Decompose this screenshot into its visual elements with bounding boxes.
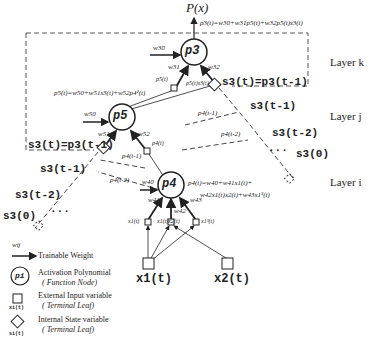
legend-ext-symbol: xi(t) (9, 305, 24, 311)
input-x2-label: x2(t) (214, 272, 250, 286)
state-s3-j-0: s3(0) (3, 210, 36, 222)
layer-j-label: Layer j (330, 110, 361, 122)
legend-int-label: Internal State variable (38, 315, 109, 324)
weight-w32: w32 (208, 63, 220, 71)
output-label: P(x) (186, 0, 208, 16)
edge-label-p4t: p4(t) (152, 140, 164, 146)
legend-poly-sub: ( Function Node) (42, 278, 97, 287)
edge-label-x1cube: x1³(t) (201, 218, 214, 224)
weight-w31: w31 (168, 63, 180, 71)
legend-ext-label: External Input variable (38, 291, 112, 300)
weight-w52: w52 (138, 130, 150, 138)
weight-w50: w50 (84, 110, 96, 118)
edge-label-p4-tm1-i: p4(t-1) (122, 152, 141, 160)
state-s3-j-tm2: s3(t-2) (15, 189, 61, 201)
edge-label-p5s3: p5(t)s3(t) (186, 80, 209, 86)
p4-equation-line1: p4(t)=w40+w41x1(t)+ (188, 179, 252, 187)
terminal-p4t-j (144, 148, 150, 154)
p4-equation-line2: w42x1(t)x2(t)+w43x1³(t) (200, 191, 270, 199)
edge-label-p4-tm1-j: p4(t-1) (198, 109, 217, 117)
legend-poly-symbol: pi (15, 271, 25, 280)
p5-label: p5 (113, 109, 127, 123)
p3-equation: p3(t)=w30+w31p5(t)+w32p5(t)s3(t) (200, 19, 303, 27)
edge-label-p4-tm2-j: p4(t-2) (221, 130, 240, 138)
edge-label-p5t: p5(t) (156, 76, 168, 82)
state-s3-k-tm2: s3(t-2) (272, 127, 318, 139)
terminal-p5t-k (171, 85, 177, 91)
state-s3-k-0: s3(0) (296, 148, 329, 160)
state-s3-k-main: s3(t)=p3(t-1) (222, 76, 308, 88)
edge-label-p4-tm2-i: p4(t-2) (110, 176, 129, 184)
weight-w41: w41 (148, 196, 160, 204)
weight-w51: w51 (98, 130, 110, 138)
edge-label-x1x2: x1(t)x2(t) (157, 218, 180, 224)
layer-i-label: Layer i (330, 176, 361, 188)
p4-label: p4 (162, 177, 176, 191)
p3-label: p3 (185, 44, 199, 58)
input-x1-label: x1(t) (136, 272, 172, 286)
weight-w30: w30 (153, 44, 165, 52)
legend-ext-sub: ( Terminal Leaf) (42, 301, 94, 310)
p5-equation: p5(t)=w50+w51s3(t)+w52p4²(t) (54, 89, 145, 97)
state-s3-j-main: s3(t)=p3(t-1) (28, 139, 114, 151)
legend-weight-label: Trainable Weight (38, 251, 93, 260)
legend-int-symbol: si(t) (9, 331, 24, 337)
weight-w42: w42 (174, 207, 186, 215)
legend-int-sub: ( Terminal Leaf) (42, 325, 94, 334)
state-s3-k-tm1: s3(t-1) (250, 100, 296, 112)
layer-k-label: Layer k (330, 56, 364, 68)
input-x1 (143, 258, 154, 269)
state-ellipsis-k: ... (268, 142, 288, 154)
state-s3-j-tm1: s3(t-1) (40, 163, 86, 175)
input-x2 (222, 258, 233, 269)
edge-label-x1t: x1(t) (128, 218, 139, 224)
legend-weight-symbol: wij (12, 241, 21, 249)
state-ellipsis-j: ... (50, 203, 70, 215)
state-s3-k (208, 78, 221, 91)
legend-poly-label: Activation Polynomial (38, 268, 111, 277)
weight-w40: w40 (142, 178, 154, 186)
